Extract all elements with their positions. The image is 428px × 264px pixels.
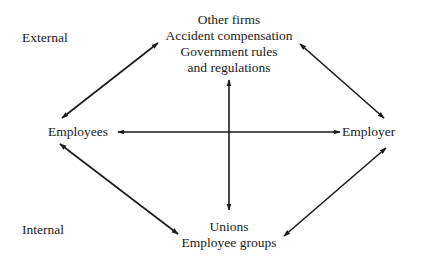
zone-label-external: External — [22, 30, 68, 46]
node-employees: Employees — [48, 124, 108, 140]
relationship-diagram: External Internal Other firms Accident c… — [0, 0, 428, 264]
zone-label-internal: Internal — [22, 222, 64, 238]
arrow-employees-external — [62, 43, 158, 118]
arrow-external-employer — [300, 44, 384, 118]
node-internal-groups: Unions Employee groups — [182, 219, 277, 251]
node-employer: Employer — [342, 124, 395, 140]
node-external-line-3: Government rules — [165, 44, 292, 60]
node-external-factors: Other firms Accident compensation Govern… — [165, 12, 292, 76]
node-internal-line-1: Unions — [182, 219, 277, 235]
node-external-line-1: Other firms — [165, 12, 292, 28]
node-external-line-4: and regulations — [165, 60, 292, 76]
arrow-unions-employer — [284, 148, 386, 236]
arrow-employees-unions — [60, 144, 178, 234]
node-external-line-2: Accident compensation — [165, 28, 292, 44]
node-internal-line-2: Employee groups — [182, 235, 277, 251]
